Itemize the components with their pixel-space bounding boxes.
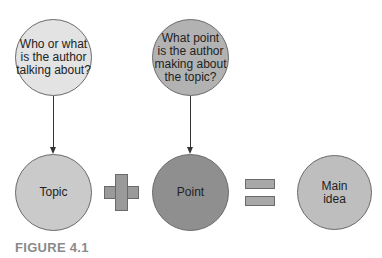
question-text-what-point: What point is the author making about th… <box>154 32 226 84</box>
topic-label: Topic <box>39 186 67 199</box>
question-node-what-point: What point is the author making about th… <box>152 19 229 96</box>
main-idea-label: Main idea <box>321 180 347 206</box>
question-text-who-what: Who or what is the author talking about? <box>16 38 91 77</box>
equals-top-bar <box>245 179 275 189</box>
arrow-to-point-head <box>187 147 193 154</box>
figure-caption: FIGURE 4.1 <box>15 240 89 255</box>
arrow-to-topic-head <box>50 147 56 154</box>
point-label: Point <box>177 186 204 199</box>
plus-center <box>116 187 127 198</box>
equals-bottom-bar <box>245 196 275 206</box>
arrow-to-point-line <box>190 96 191 148</box>
main-idea-node: Main idea <box>297 155 372 230</box>
arrow-to-topic-line <box>53 96 54 148</box>
question-node-who-what: Who or what is the author talking about? <box>15 19 92 96</box>
topic-node: Topic <box>15 154 92 231</box>
point-node: Point <box>152 154 229 231</box>
